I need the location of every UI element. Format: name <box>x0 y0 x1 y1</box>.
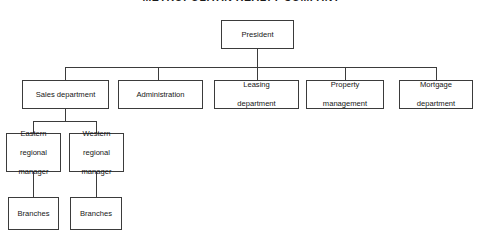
node-property-management[interactable]: Propertymanagement <box>306 80 384 109</box>
node-president-label: President <box>239 30 275 39</box>
node-western-branches-label: Branches <box>78 209 114 218</box>
connector-president-stem <box>257 49 258 67</box>
connector-drop-leasing <box>257 67 258 80</box>
connector-sales-stem <box>65 109 66 121</box>
connector-level2-bus <box>65 67 437 68</box>
node-eastern-regional-manager-label: Easternregionalmanager <box>15 129 53 176</box>
node-sales-department-label: Sales department <box>34 90 98 99</box>
eastern-line-3: manager <box>17 167 51 176</box>
property-line-2: management <box>321 99 369 108</box>
node-mortgage-department-label: Mortgagedepartment <box>413 80 459 108</box>
node-leasing-department-label: Leasingdepartment <box>233 80 279 108</box>
node-sales-department[interactable]: Sales department <box>22 80 109 109</box>
node-western-branches[interactable]: Branches <box>70 197 122 230</box>
eastern-line-1: Eastern <box>17 129 51 138</box>
western-line-2: regional <box>80 148 114 157</box>
western-line-1: Western <box>80 129 114 138</box>
node-eastern-branches[interactable]: Branches <box>8 197 59 230</box>
node-western-regional-manager[interactable]: Westernregionalmanager <box>69 133 124 172</box>
node-leasing-department[interactable]: Leasingdepartment <box>214 80 299 109</box>
connector-level3-bus <box>33 121 97 122</box>
chart-title: METROPOLITAN REALTY COMPANY <box>0 0 483 3</box>
node-eastern-regional-manager[interactable]: Easternregionalmanager <box>6 133 61 172</box>
property-line-1: Property <box>321 80 369 89</box>
connector-drop-sales <box>65 67 66 80</box>
node-president[interactable]: President <box>221 20 294 49</box>
connector-drop-mortgage <box>436 67 437 80</box>
node-eastern-branches-label: Branches <box>15 209 51 218</box>
node-mortgage-department[interactable]: Mortgagedepartment <box>399 80 473 109</box>
connector-drop-property <box>345 67 346 80</box>
mortgage-line-2: department <box>415 99 457 108</box>
node-administration-label: Administration <box>134 90 186 99</box>
western-line-3: manager <box>80 167 114 176</box>
mortgage-line-1: Mortgage <box>415 80 457 89</box>
leasing-line-2: department <box>235 99 277 108</box>
leasing-line-1: Leasing <box>235 80 277 89</box>
org-chart: METROPOLITAN REALTY COMPANY President Sa… <box>0 0 483 239</box>
node-western-regional-manager-label: Westernregionalmanager <box>78 129 116 176</box>
node-administration[interactable]: Administration <box>118 80 203 109</box>
eastern-line-2: regional <box>17 148 51 157</box>
connector-drop-administration <box>158 67 159 80</box>
node-property-management-label: Propertymanagement <box>319 80 371 108</box>
